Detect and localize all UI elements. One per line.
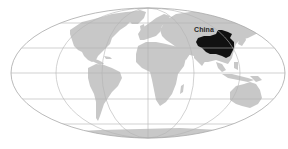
world-map-svg — [0, 0, 288, 149]
china-label: China — [194, 26, 214, 33]
new-zealand — [268, 104, 273, 114]
world-map: China — [0, 0, 288, 149]
